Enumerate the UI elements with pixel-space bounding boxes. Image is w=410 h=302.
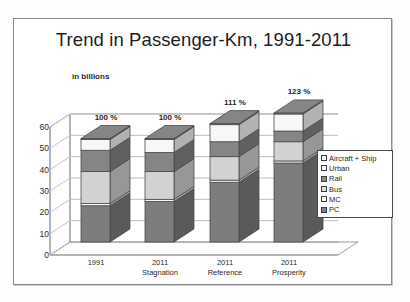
x-axis-tick-line: 2011 — [258, 258, 320, 268]
units-label: in billions — [72, 72, 109, 81]
legend-item-label: PC — [329, 205, 339, 214]
legend-item-pc[interactable]: PC — [321, 204, 390, 214]
x-axis-tick-line: 1991 — [65, 258, 127, 268]
bar-segment-pc — [274, 163, 303, 242]
legend-item-label: Aircraft + Ship — [329, 154, 376, 163]
legend-item-urban[interactable]: Urban — [321, 163, 390, 173]
legend-item-label: MC — [329, 195, 341, 204]
x-axis-tick: 2011Stagnation — [129, 258, 191, 277]
legend-swatch-icon — [321, 207, 327, 213]
legend-swatch-icon — [321, 176, 327, 182]
legend-item-aircraft-ship[interactable]: Aircraft + Ship — [321, 153, 390, 163]
legend-swatch-icon — [321, 186, 327, 192]
chart-legend[interactable]: Aircraft + ShipUrbanRailBusMCPC — [317, 150, 393, 218]
legend-swatch-icon — [321, 155, 327, 161]
x-axis-tick-line: 2011 — [194, 258, 256, 268]
legend-item-mc[interactable]: MC — [321, 194, 390, 204]
bar-value-label: 123 % — [276, 87, 322, 96]
slide-frame: Trend in Passenger-Km, 1991-2011 in bill… — [13, 18, 392, 285]
x-axis-tick-line: Reference — [194, 268, 256, 278]
bar-segment-rail — [274, 131, 303, 142]
x-axis-tick: 2011Prosperity — [258, 258, 320, 277]
legend-item-label: Urban — [329, 164, 349, 173]
x-axis-tick-line: Stagnation — [129, 268, 191, 278]
bar-segment-urban — [274, 114, 303, 131]
legend-swatch-icon — [321, 165, 327, 171]
x-axis-tick: 1991 — [65, 258, 127, 268]
x-axis-tick: 2011Reference — [194, 258, 256, 277]
x-axis-tick-line: 2011 — [129, 258, 191, 268]
legend-item-label: Bus — [329, 185, 342, 194]
x-axis-tick-line: Prosperity — [258, 268, 320, 278]
legend-item-rail[interactable]: Rail — [321, 174, 390, 184]
legend-swatch-icon — [321, 196, 327, 202]
legend-item-label: Rail — [329, 174, 342, 183]
chart-title: Trend in Passenger-Km, 1991-2011 — [14, 29, 393, 51]
bar-segment-bus — [274, 142, 303, 161]
legend-item-bus[interactable]: Bus — [321, 184, 390, 194]
